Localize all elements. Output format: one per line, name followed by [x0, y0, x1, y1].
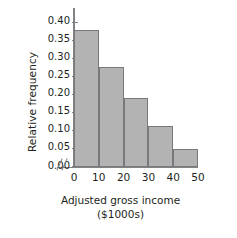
x-axis-label-line2: ($1000s)	[18, 207, 223, 221]
y-tick-label: 0.15	[48, 105, 70, 116]
y-tick-label: 0.05	[48, 141, 70, 152]
bar	[124, 98, 149, 166]
x-tick-label: 30	[136, 171, 160, 183]
x-tick-label: 20	[112, 171, 136, 183]
x-tick-label: 40	[161, 171, 185, 183]
x-tick-label: 50	[186, 171, 210, 183]
x-axis-line	[57, 167, 198, 169]
bar	[173, 149, 198, 166]
axis-break-icon	[56, 158, 74, 172]
plot-area: 0.000.050.100.150.200.250.300.350.40 010…	[73, 8, 198, 168]
y-tick-label: 0.40	[48, 15, 70, 26]
y-tick-label: 0.25	[48, 69, 70, 80]
y-axis-label: Relative frequency	[26, 22, 38, 182]
y-tick-label: 0.10	[48, 123, 70, 134]
bar-series	[74, 8, 198, 167]
y-tick-label: 0.30	[48, 51, 70, 62]
x-axis-label-line1: Adjusted gross income	[18, 193, 223, 207]
x-tick-label: 10	[87, 171, 111, 183]
bar	[74, 30, 99, 167]
bar	[99, 67, 124, 166]
y-tick-label: 0.20	[48, 87, 70, 98]
y-tick-label: 0.35	[48, 33, 70, 44]
bar	[148, 126, 173, 166]
x-axis-label: Adjusted gross income ($1000s)	[18, 193, 223, 221]
x-tick-label: 0	[62, 171, 86, 183]
relative-frequency-histogram: Relative frequency 0.000.050.100.150.200…	[0, 0, 237, 238]
